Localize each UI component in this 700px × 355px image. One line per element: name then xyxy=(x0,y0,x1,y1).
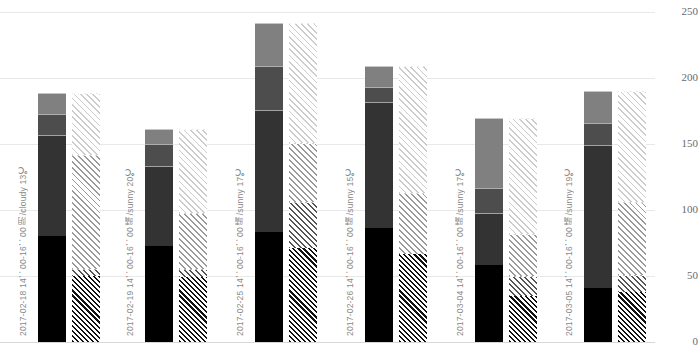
bar-segment-h4[interactable] xyxy=(399,66,427,193)
bar-segment-h3[interactable] xyxy=(618,202,646,275)
bar-segment-s1[interactable] xyxy=(255,232,283,342)
bar-segment-s4[interactable] xyxy=(38,93,66,114)
bar-segment-h4[interactable] xyxy=(509,118,537,234)
bar-segment-h2[interactable] xyxy=(289,202,317,248)
bar-hatched[interactable] xyxy=(72,93,100,342)
bar-segment-s1[interactable] xyxy=(584,288,612,342)
bar-segment-s3[interactable] xyxy=(38,114,66,135)
bar-segment-s3[interactable] xyxy=(584,123,612,145)
bar-segment-h4[interactable] xyxy=(289,23,317,143)
bar-segment-s1[interactable] xyxy=(365,228,393,342)
bar-segment-s1[interactable] xyxy=(145,246,173,342)
plot-area: 2017-02-18 14：00-16：00 阴/cloudy 13℃2017-… xyxy=(0,0,655,355)
bar-segment-h2[interactable] xyxy=(509,276,537,296)
bar-segment-h1[interactable] xyxy=(618,292,646,342)
y-axis-tick-label: 250 xyxy=(660,6,698,17)
bar-solid[interactable] xyxy=(145,129,173,342)
bar-hatched[interactable] xyxy=(399,66,427,342)
y-axis-tick-label: 200 xyxy=(660,72,698,83)
y-axis-tick-label: 150 xyxy=(660,138,698,149)
bar-segment-s4[interactable] xyxy=(584,91,612,123)
bar-segment-h1[interactable] xyxy=(509,296,537,342)
x-axis-category-label: 2017-02-19 14：00-16：00 晴/sunny 20℃ xyxy=(121,166,139,336)
bar-segment-s3[interactable] xyxy=(475,188,503,213)
bar-segment-h4[interactable] xyxy=(72,93,100,155)
bar-segment-s2[interactable] xyxy=(584,145,612,288)
bar-segment-s2[interactable] xyxy=(475,213,503,266)
y-axis-tick-label: 50 xyxy=(660,270,698,281)
gridline-250 xyxy=(0,12,655,13)
bar-segment-h2[interactable] xyxy=(179,269,207,277)
y-axis-tick-label: 0 xyxy=(660,336,698,347)
bar-solid[interactable] xyxy=(365,66,393,342)
x-axis-category-label: 2017-03-04 14：00-16：00 晴/sunny 17℃ xyxy=(451,166,469,336)
bar-solid[interactable] xyxy=(38,93,66,342)
bar-segment-s2[interactable] xyxy=(145,166,173,245)
bar-segment-h3[interactable] xyxy=(509,234,537,276)
bar-segment-s3[interactable] xyxy=(145,144,173,166)
bar-solid[interactable] xyxy=(255,23,283,342)
bar-segment-s3[interactable] xyxy=(255,66,283,110)
bar-segment-h2[interactable] xyxy=(618,275,646,292)
bar-solid[interactable] xyxy=(475,118,503,342)
bar-segment-s2[interactable] xyxy=(38,135,66,237)
bar-segment-s4[interactable] xyxy=(365,66,393,87)
bar-segment-h4[interactable] xyxy=(618,91,646,202)
bar-hatched[interactable] xyxy=(179,129,207,342)
y-axis-tick-label: 100 xyxy=(660,204,698,215)
gridline-200 xyxy=(0,78,655,79)
bar-segment-s4[interactable] xyxy=(475,118,503,188)
bar-segment-h2[interactable] xyxy=(72,269,100,276)
bar-segment-s4[interactable] xyxy=(255,23,283,67)
bar-segment-h1[interactable] xyxy=(179,277,207,342)
bar-segment-s1[interactable] xyxy=(475,265,503,342)
bar-segment-s2[interactable] xyxy=(365,102,393,229)
bar-segment-h3[interactable] xyxy=(399,193,427,254)
bar-segment-s2[interactable] xyxy=(255,110,283,233)
bar-segment-s4[interactable] xyxy=(145,129,173,144)
stacked-bar-chart: 2017-02-18 14：00-16：00 阴/cloudy 13℃2017-… xyxy=(0,0,700,355)
x-axis-category-label: 2017-02-25 14：00-16：00 晴/sunny 17℃ xyxy=(231,166,249,336)
bar-segment-s3[interactable] xyxy=(365,87,393,102)
bar-segment-s1[interactable] xyxy=(38,236,66,342)
bar-segment-h3[interactable] xyxy=(179,213,207,270)
bar-segment-h1[interactable] xyxy=(289,248,317,342)
bar-segment-h3[interactable] xyxy=(289,143,317,202)
bar-segment-h4[interactable] xyxy=(179,129,207,212)
x-axis-category-label: 2017-02-26 14：00-16：00 晴/sunny 15℃ xyxy=(341,166,359,336)
bar-segment-h3[interactable] xyxy=(72,155,100,270)
bar-hatched[interactable] xyxy=(618,91,646,342)
bar-hatched[interactable] xyxy=(289,23,317,342)
bar-segment-h1[interactable] xyxy=(72,276,100,342)
bar-hatched[interactable] xyxy=(509,118,537,342)
x-axis-category-label: 2017-03-05 14：00-16：00 晴/sunny 19℃ xyxy=(560,166,578,336)
gridline-0 xyxy=(0,342,655,343)
bar-segment-h1[interactable] xyxy=(399,254,427,342)
x-axis-category-label: 2017-02-18 14：00-16：00 阴/cloudy 13℃ xyxy=(14,166,32,336)
bar-solid[interactable] xyxy=(584,91,612,342)
